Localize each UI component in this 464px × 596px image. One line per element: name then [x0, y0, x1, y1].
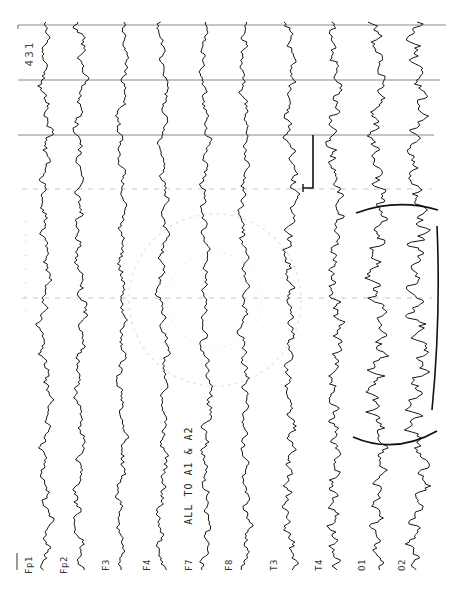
- channel-label-f8: F8: [224, 553, 234, 577]
- eeg-traces: [36, 22, 431, 570]
- channel-label-o2: O2: [397, 553, 407, 577]
- channel-label-f4: F4: [142, 553, 152, 577]
- eeg-trace-fp1: [36, 22, 54, 570]
- time-gridlines: [18, 25, 446, 298]
- stamp-inner: [168, 253, 263, 348]
- bracket-right-line: [432, 226, 438, 410]
- channel-label-o1: O1: [357, 553, 367, 577]
- channel-label-t4: T4: [314, 553, 324, 577]
- eeg-trace-t4: [326, 22, 345, 570]
- stamp-outline: [129, 214, 301, 386]
- channel-label-f7: F7: [184, 553, 194, 577]
- hand-annotations: [303, 135, 438, 445]
- eeg-trace-f3: [115, 22, 128, 570]
- eeg-trace-o2: [404, 22, 430, 570]
- eeg-trace-f8: [237, 22, 253, 570]
- eeg-trace-t3: [282, 22, 300, 570]
- channel-label-fp1: Fp1: [24, 553, 34, 577]
- bracket-bottom-arc: [353, 431, 437, 445]
- faint-handwritten-note: · · · · · ·· ·: [22, 233, 31, 313]
- channel-label-t3: T3: [269, 553, 279, 577]
- eeg-trace-fp2: [73, 22, 89, 570]
- eeg-tracing-canvas: [0, 0, 464, 596]
- channel-label-f3: F3: [101, 553, 111, 577]
- page-number: 431: [23, 39, 36, 69]
- faint-stamp: [129, 214, 301, 386]
- channel-label-fp2: Fp2: [59, 553, 69, 577]
- montage-label: ALL TO A1 & A2: [183, 426, 194, 526]
- calibration-pulse-mark: [303, 135, 313, 188]
- eeg-trace-f4: [155, 22, 170, 570]
- eeg-trace-o1: [365, 22, 389, 570]
- eeg-trace-f7: [199, 22, 213, 570]
